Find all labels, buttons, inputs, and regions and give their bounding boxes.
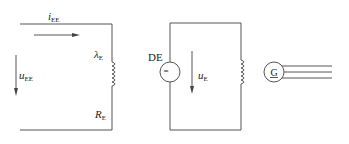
dc-source-symbol: = xyxy=(163,66,168,76)
inductance-label: λE xyxy=(93,48,103,62)
generator-label: G xyxy=(270,67,277,78)
voltage-label-ue: uE xyxy=(198,69,208,83)
current-label: iEE xyxy=(48,10,60,24)
voltage-arrow-left-head xyxy=(14,88,18,96)
dc-source-label: DE xyxy=(148,51,163,63)
resistance-label: RE xyxy=(94,108,106,122)
current-arrow-head xyxy=(72,33,80,37)
mid-inductor-coil xyxy=(241,60,244,84)
voltage-label-uee: uEE xyxy=(19,69,33,83)
left-inductor-coil xyxy=(112,62,115,86)
circuit-diagram: iEE uEE λE RE = DE uE G xyxy=(0,0,349,144)
voltage-arrow-mid-head xyxy=(190,86,194,94)
